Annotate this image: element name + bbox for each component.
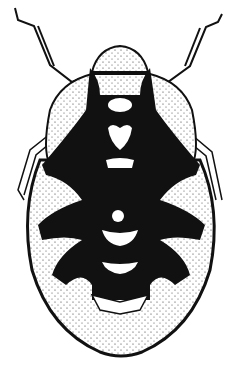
head [92,46,148,72]
insect-drawing [0,0,241,369]
insect-illustration [0,0,241,369]
